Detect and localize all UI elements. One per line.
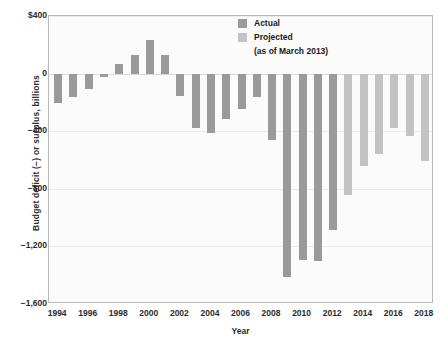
- bar-2010: [299, 74, 307, 260]
- legend-item-projected: Projected: [238, 32, 328, 43]
- y-tick-label: −800: [1, 183, 47, 193]
- bar-2005: [222, 74, 230, 120]
- bar-2007: [253, 74, 261, 97]
- bar-2014: [360, 74, 368, 166]
- bar-2011: [314, 74, 322, 261]
- y-tick-label: $400: [1, 10, 47, 20]
- y-tick-label: −1,200: [1, 240, 47, 250]
- x-tick-label: 1996: [71, 308, 105, 318]
- budget-deficit-chart: Budget deficit (−) or surplus, billions …: [0, 0, 440, 359]
- bar-2001: [161, 55, 169, 73]
- bar-2009: [283, 74, 291, 277]
- y-tick-label: 0: [1, 68, 47, 78]
- bar-1997: [100, 74, 108, 77]
- x-tick-label: 2018: [407, 308, 440, 318]
- bar-1995: [69, 74, 77, 98]
- x-tick-label: 1998: [101, 308, 135, 318]
- x-tick-label: 2016: [376, 308, 410, 318]
- legend-swatch-projected-icon: [238, 33, 247, 42]
- bar-2017: [406, 74, 414, 136]
- x-tick-label: 2002: [162, 308, 196, 318]
- bar-1994: [54, 74, 62, 103]
- gridline: [49, 16, 432, 17]
- x-tick-label: 2006: [224, 308, 258, 318]
- y-tick-label: −400: [1, 125, 47, 135]
- legend-swatch-actual-icon: [238, 19, 247, 28]
- bar-2002: [176, 74, 184, 97]
- x-tick-label: 2012: [315, 308, 349, 318]
- x-tick-label: 2010: [285, 308, 319, 318]
- bar-2013: [344, 74, 352, 196]
- y-tick-label: −1,600: [1, 298, 47, 308]
- x-axis-title: Year: [48, 326, 433, 336]
- legend-note-projected: (as of March 2013): [254, 46, 328, 57]
- x-tick-label: 2008: [254, 308, 288, 318]
- bar-2008: [268, 74, 276, 140]
- bar-2004: [207, 74, 215, 133]
- x-tick-label: 2000: [132, 308, 166, 318]
- x-tick-label: 2004: [193, 308, 227, 318]
- gridline: [49, 246, 432, 247]
- bar-2016: [390, 74, 398, 128]
- gridline: [49, 189, 432, 190]
- bar-2006: [238, 74, 246, 110]
- bar-2003: [192, 74, 200, 128]
- chart-legend: Actual Projected (as of March 2013): [238, 18, 328, 57]
- legend-label-actual: Actual: [254, 18, 280, 29]
- x-tick-label: 1994: [40, 308, 74, 318]
- bar-1996: [85, 74, 93, 89]
- plot-area: [48, 15, 433, 303]
- bar-2012: [329, 74, 337, 231]
- legend-item-actual: Actual: [238, 18, 328, 29]
- bar-2018: [421, 74, 429, 161]
- bar-1998: [115, 64, 123, 74]
- legend-label-projected: Projected: [254, 32, 293, 43]
- x-tick-label: 2014: [346, 308, 380, 318]
- bar-2015: [375, 74, 383, 155]
- bar-2000: [146, 40, 154, 74]
- bar-1999: [131, 55, 139, 73]
